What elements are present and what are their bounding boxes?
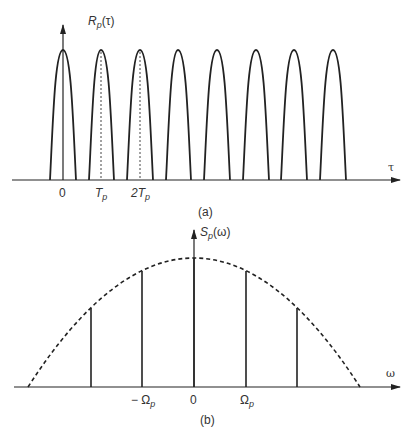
caption-a: (a): [198, 205, 213, 219]
r-axis-label: Rp(τ): [88, 14, 114, 30]
pulse-3: [166, 50, 191, 180]
pulse-7: [320, 50, 346, 180]
s-axis-label: Sp(ω): [200, 225, 230, 241]
spectral-lines: [91, 258, 297, 387]
pulse-6: [281, 50, 307, 180]
tick-label-omega-p: Ωp: [240, 393, 254, 409]
tick-label-tp: Tp: [95, 186, 107, 202]
pulse-4: [204, 50, 230, 180]
pulse-train: [50, 50, 346, 180]
tick-label-2tp: 2Tp: [130, 186, 150, 202]
figure-canvas: Rp(τ) τ 0 Tp 2Tp (a): [0, 0, 413, 436]
tau-axis-label: τ: [388, 161, 394, 174]
omega-axis-label: ω: [386, 367, 395, 380]
panel-b: Sp(ω) ω − Ωp 0 Ωp (b): [14, 225, 400, 427]
tick-label-zero: 0: [190, 393, 197, 407]
caption-b: (b): [200, 413, 215, 427]
tick-label-minus-omega-p: − Ωp: [131, 393, 155, 409]
tick-label-0: 0: [59, 186, 66, 200]
panel-a: Rp(τ) τ 0 Tp 2Tp (a): [12, 14, 400, 219]
pulse-5: [243, 50, 269, 180]
